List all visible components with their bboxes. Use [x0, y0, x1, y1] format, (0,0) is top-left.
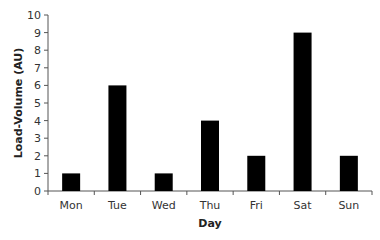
x-tick-label: Sun: [338, 199, 359, 212]
y-tick-label: 3: [34, 132, 41, 145]
y-tick-label: 6: [34, 79, 41, 92]
bar-sun: [340, 156, 358, 191]
x-tick-label: Wed: [152, 199, 176, 212]
y-axis-title: Load-Volume (AU): [12, 48, 25, 159]
bar-sat: [294, 33, 312, 191]
x-tick-label: Tue: [107, 199, 127, 212]
x-tick-label: Mon: [60, 199, 83, 212]
x-axis: MonTueWedThuFriSatSun: [48, 191, 372, 212]
y-tick-label: 4: [34, 115, 41, 128]
x-tick-label: Fri: [250, 199, 263, 212]
y-tick-label: 0: [34, 185, 41, 198]
x-tick-label: Sat: [294, 199, 313, 212]
bar-chart: 012345678910 MonTueWedThuFriSatSun Load-…: [0, 0, 380, 240]
y-tick-label: 1: [34, 167, 41, 180]
y-tick-label: 10: [27, 9, 41, 22]
y-tick-label: 8: [34, 44, 41, 57]
bar-mon: [62, 173, 80, 191]
bar-thu: [201, 121, 219, 191]
bars: [62, 33, 358, 191]
x-axis-title: Day: [198, 217, 221, 230]
x-tick-label: Thu: [199, 199, 221, 212]
y-tick-label: 7: [34, 62, 41, 75]
bar-fri: [247, 156, 265, 191]
y-tick-label: 5: [34, 97, 41, 110]
y-tick-label: 2: [34, 150, 41, 163]
y-tick-label: 9: [34, 27, 41, 40]
bar-tue: [108, 85, 126, 191]
y-axis: 012345678910: [27, 9, 48, 198]
bar-wed: [155, 173, 173, 191]
